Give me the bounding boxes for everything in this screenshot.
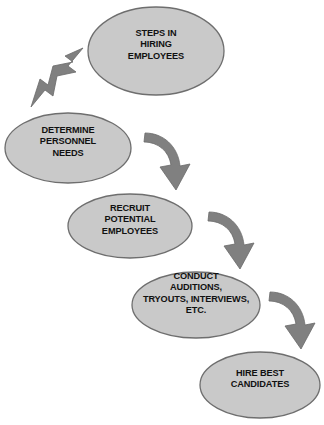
node-shape-hire-best-candidates[interactable] — [200, 352, 320, 418]
arrow-3-icon — [208, 212, 254, 269]
arrow-1-icon — [31, 48, 83, 107]
node-shape-determine-personnel-needs[interactable] — [5, 113, 131, 183]
flowchart-graphics — [0, 0, 324, 425]
node-shape-recruit-potential-employees[interactable] — [68, 194, 192, 258]
flowchart-canvas: STEPS IN HIRING EMPLOYEES DETERMINE PERS… — [0, 0, 324, 425]
node-shape-conduct-auditions[interactable] — [132, 272, 260, 338]
arrow-4-icon — [269, 292, 315, 349]
node-shape-steps-in-hiring-employees[interactable] — [88, 7, 224, 95]
arrow-2-icon — [144, 133, 190, 190]
